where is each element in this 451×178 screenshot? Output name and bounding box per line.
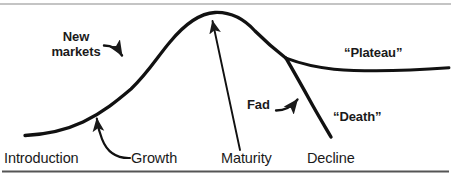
phase-label-decline: Decline xyxy=(307,151,355,167)
annotation-new-markets-line1: New xyxy=(47,29,105,44)
plateau-branch-curve xyxy=(286,58,449,71)
product-life-cycle-figure: New markets “Plateau” Fad “Death” Introd… xyxy=(0,0,451,178)
annotation-plateau: “Plateau” xyxy=(344,46,402,60)
phase-label-maturity: Maturity xyxy=(221,151,272,167)
fad-arrow-icon xyxy=(276,100,298,111)
annotation-fad: Fad xyxy=(247,98,270,112)
maturity-arrow-icon xyxy=(213,21,241,150)
phase-label-introduction: Introduction xyxy=(4,151,79,167)
new-markets-arrow-icon xyxy=(104,46,122,56)
death-branch-curve xyxy=(286,58,331,137)
annotation-new-markets: New markets xyxy=(47,29,105,60)
annotation-new-markets-line2: markets xyxy=(47,44,105,59)
growth-arrow-icon xyxy=(97,119,130,159)
phase-label-growth: Growth xyxy=(131,151,177,167)
annotation-death: “Death” xyxy=(333,110,381,124)
